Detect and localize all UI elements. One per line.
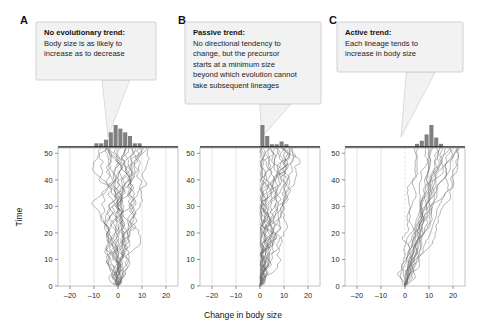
x-tick-label: 10	[138, 291, 146, 300]
y-axis-title: Time	[14, 207, 24, 226]
histogram-bar	[123, 132, 127, 147]
callout-title: No evolutionary trend:	[44, 28, 125, 37]
y-tick-label: 10	[331, 255, 339, 264]
y-tick-label: 20	[186, 229, 194, 238]
x-tick-label: –10	[88, 291, 100, 300]
y-tick-label: 30	[331, 202, 339, 211]
callout-line: Each lineage tends to	[345, 39, 418, 48]
callout-line: increase as to decrease	[44, 49, 125, 58]
x-tick-label: –10	[375, 291, 387, 300]
callout-line: take subsequent lineages	[193, 81, 279, 90]
y-tick-label: 10	[186, 255, 194, 264]
histogram-bar	[434, 138, 438, 147]
x-tick-label: 0	[403, 291, 407, 300]
y-tick-label: 0	[190, 282, 194, 291]
x-tick-label: –20	[206, 291, 218, 300]
x-tick-label: –10	[230, 291, 242, 300]
y-tick-label: 20	[44, 229, 52, 238]
callout-title: Active trend:	[345, 28, 391, 37]
callout-line: beyond which evolution cannot	[193, 70, 298, 79]
y-tick-label: 30	[44, 202, 52, 211]
histogram-bar	[128, 136, 132, 147]
histogram-bar	[104, 140, 108, 147]
histogram-bar	[114, 125, 118, 147]
y-tick-label: 0	[335, 282, 339, 291]
histogram-bar	[425, 134, 429, 147]
callout-line: change, but the precursor	[193, 49, 280, 58]
x-axis-title: Change in body size	[204, 310, 282, 320]
x-tick-label: 20	[449, 291, 457, 300]
callout-line: increase in body size	[345, 49, 416, 58]
histogram-bar	[429, 125, 433, 147]
y-tick-label: 50	[331, 149, 339, 158]
callout-line: Body size is as likely to	[44, 39, 122, 48]
evolutionary-trends-figure: ANo evolutionary trend:Body size is as l…	[0, 0, 486, 325]
x-tick-label: 0	[258, 291, 262, 300]
x-tick-label: –20	[351, 291, 363, 300]
x-tick-label: 10	[425, 291, 433, 300]
callout-title: Passive trend:	[193, 28, 245, 37]
histogram-bar	[280, 142, 284, 148]
panel-letter-a: A	[20, 14, 28, 26]
histogram-bar	[420, 141, 424, 147]
x-tick-label: –20	[64, 291, 76, 300]
y-tick-label: 40	[331, 176, 339, 185]
histogram-bar	[260, 125, 264, 147]
y-tick-label: 50	[44, 149, 52, 158]
callout-line: starts at a minimum size	[193, 60, 275, 69]
histogram-bar	[118, 129, 122, 147]
x-tick-label: 10	[280, 291, 288, 300]
y-tick-label: 10	[44, 255, 52, 264]
x-tick-label: 0	[116, 291, 120, 300]
histogram-bar	[109, 132, 113, 147]
callout-line: No directional tendency to	[193, 39, 281, 48]
y-tick-label: 30	[186, 202, 194, 211]
y-tick-label: 50	[186, 149, 194, 158]
x-tick-label: 20	[304, 291, 312, 300]
y-tick-label: 20	[331, 229, 339, 238]
panel-letter-c: C	[329, 14, 337, 26]
y-tick-label: 40	[44, 176, 52, 185]
x-tick-label: 20	[162, 291, 170, 300]
y-tick-label: 40	[186, 176, 194, 185]
y-tick-label: 0	[48, 282, 52, 291]
histogram-bar	[265, 136, 269, 147]
